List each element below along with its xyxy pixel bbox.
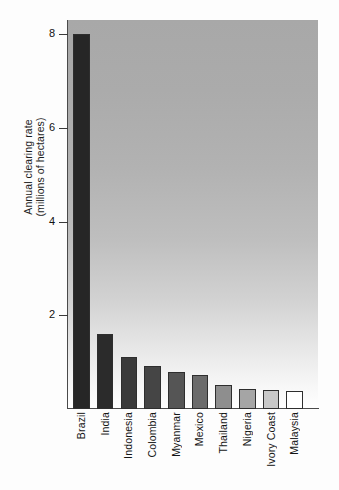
y-tick-label: 2 [49, 308, 55, 320]
x-axis-label-india: India [100, 412, 111, 436]
x-axis-label-malaysia: Malaysia [289, 412, 300, 455]
bar-thailand [215, 385, 232, 409]
y-axis-title-line-1: Annual clearing rate [22, 119, 35, 214]
x-axis-label-brazil: Brazil [76, 412, 87, 439]
y-tick-label: 8 [49, 27, 55, 39]
bar-brazil [73, 34, 90, 409]
deforestation-bar-chart: Annual clearing rate (millions of hectar… [0, 0, 339, 490]
bars-group [68, 20, 318, 409]
bar-malaysia [286, 391, 303, 409]
y-tick-8: 8 [0, 34, 68, 35]
bar-colombia [144, 366, 161, 409]
x-axis-labels: BrazilIndiaIndonesiaColombiaMyanmarMexic… [68, 412, 318, 490]
y-tick-mark [59, 222, 68, 223]
x-axis-label-thailand: Thailand [218, 412, 229, 453]
y-tick-mark [59, 315, 68, 316]
y-axis-title-line-2: (millions of hectares) [34, 117, 47, 216]
bar-india [97, 334, 114, 409]
y-tick-mark [59, 128, 68, 129]
x-axis-label-indonesia: Indonesia [123, 412, 134, 459]
bar-mexico [192, 375, 209, 409]
x-axis-label-colombia: Colombia [147, 412, 158, 458]
y-tick-label: 4 [49, 215, 55, 227]
bar-myanmar [168, 372, 185, 409]
x-axis-label-nigeria: Nigeria [242, 412, 253, 446]
y-axis-title: Annual clearing rate (millions of hectar… [17, 67, 51, 267]
y-tick-2: 2 [0, 315, 68, 316]
y-tick-mark [59, 34, 68, 35]
bar-indonesia [121, 357, 138, 409]
x-axis-label-ivory-coast: Ivory Coast [266, 412, 277, 467]
x-axis-label-myanmar: Myanmar [171, 412, 182, 457]
bar-ivory-coast [263, 390, 280, 409]
bar-nigeria [239, 389, 256, 409]
x-axis-label-mexico: Mexico [194, 412, 205, 446]
y-tick-4: 4 [0, 222, 68, 223]
y-tick-6: 6 [0, 128, 68, 129]
y-tick-label: 6 [49, 121, 55, 133]
